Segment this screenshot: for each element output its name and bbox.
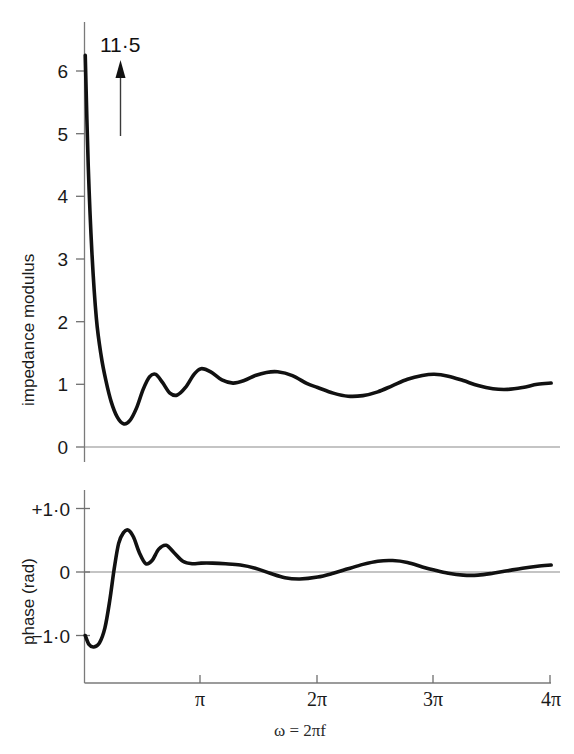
upper-ytick-label-4: 4 [57, 186, 68, 207]
lower-plot: +1·0 0 −1·0 phase (rad) π 2π 3π 4π ω = 2… [19, 490, 561, 740]
x-ticks [200, 675, 550, 683]
xtick-label-3pi: 3π [423, 688, 443, 710]
figure-container: 0 1 2 3 4 5 6 impedance modulus 11·5 [0, 0, 574, 754]
upper-ytick-label-1: 1 [57, 374, 68, 395]
lower-y-ticks [76, 509, 90, 636]
upper-ytick-label-2: 2 [57, 312, 68, 333]
impedance-phase-figure: 0 1 2 3 4 5 6 impedance modulus 11·5 [0, 0, 574, 754]
x-axis-title: ω = 2πf [274, 721, 326, 740]
offscale-annotation: 11·5 [100, 33, 140, 136]
upper-ytick-label-3: 3 [57, 249, 68, 270]
xtick-label-4pi: 4π [541, 688, 561, 710]
annotation-value-label: 11·5 [100, 33, 140, 56]
phase-curve [85, 530, 551, 647]
upper-ytick-label-0: 0 [57, 437, 68, 458]
lower-y-axis-title: phase (rad) [19, 558, 38, 645]
upper-y-ticks [76, 71, 85, 447]
up-arrow-icon [116, 60, 126, 136]
xtick-label-pi: π [195, 688, 205, 710]
lower-ytick-label-zero: 0 [59, 562, 70, 583]
impedance-modulus-curve [85, 55, 551, 424]
xtick-label-2pi: 2π [307, 688, 327, 710]
upper-ytick-label-5: 5 [57, 124, 68, 145]
upper-ytick-label-6: 6 [57, 61, 68, 82]
upper-plot: 0 1 2 3 4 5 6 impedance modulus [19, 22, 560, 462]
upper-y-axis-title: impedance modulus [19, 254, 38, 406]
lower-ytick-label-plus1: +1·0 [31, 499, 70, 520]
